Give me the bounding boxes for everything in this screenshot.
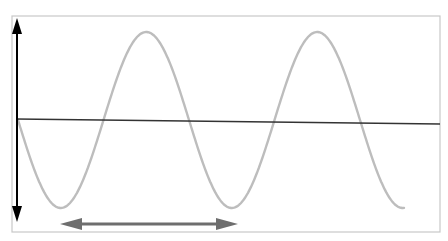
wavelength-double-arrow-icon	[60, 218, 238, 230]
amplitude-double-arrow-icon	[12, 18, 22, 222]
wave-diagram	[0, 0, 448, 241]
wave-diagram-canvas	[0, 0, 448, 241]
equilibrium-axis-line	[16, 119, 440, 124]
